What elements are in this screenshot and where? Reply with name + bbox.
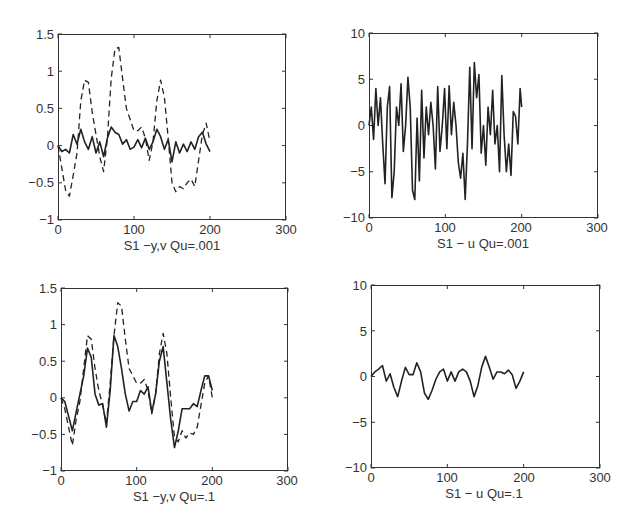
plot-area bbox=[0, 0, 626, 527]
y-tick-label: −5 bbox=[327, 415, 367, 430]
y-tick-label: 0 bbox=[327, 369, 367, 384]
y-tick-label: 5 bbox=[327, 324, 367, 339]
x-tick-label: 0 bbox=[367, 470, 374, 485]
x-tick-label: 300 bbox=[589, 470, 611, 485]
x-tick-label: 100 bbox=[436, 470, 458, 485]
y-tick-label: 10 bbox=[327, 278, 367, 293]
x-tick-label: 200 bbox=[513, 470, 535, 485]
y-tick-label: −10 bbox=[327, 460, 367, 475]
series-line-u bbox=[371, 356, 524, 399]
x-axis-label: S1 − u Qu=.1 bbox=[445, 486, 522, 501]
